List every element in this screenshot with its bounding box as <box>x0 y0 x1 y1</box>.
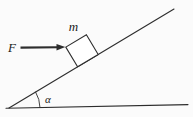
mass-block <box>66 35 98 67</box>
mass-label: m <box>69 19 78 34</box>
force-arrowhead-icon <box>57 44 66 51</box>
angle-label: α <box>45 93 51 105</box>
ground-line <box>6 105 188 109</box>
physics-incline-diagram: F m α <box>0 0 193 117</box>
diagram-canvas: F m α <box>0 0 193 117</box>
force-label: F <box>7 40 17 55</box>
angle-arc <box>36 92 40 107</box>
force-arrow <box>21 44 66 51</box>
